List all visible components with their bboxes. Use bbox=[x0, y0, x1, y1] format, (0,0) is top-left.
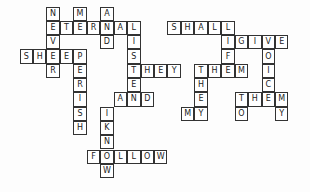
crossword-cell[interactable]: S bbox=[167, 21, 180, 35]
crossword-cell[interactable]: L bbox=[127, 150, 140, 164]
crossword-cell[interactable]: H bbox=[73, 121, 86, 135]
crossword-cell[interactable]: H bbox=[141, 64, 154, 78]
crossword-cell[interactable]: A bbox=[100, 7, 113, 21]
crossword-cell[interactable]: L bbox=[208, 21, 221, 35]
crossword-cell[interactable]: A bbox=[114, 21, 127, 35]
crossword-cell[interactable]: H bbox=[194, 78, 207, 92]
crossword-cell[interactable]: M bbox=[235, 64, 248, 78]
crossword-cell[interactable]: R bbox=[87, 21, 100, 35]
crossword-cell[interactable]: M bbox=[181, 107, 194, 121]
crossword-cell[interactable]: R bbox=[46, 64, 59, 78]
crossword-cell[interactable]: N bbox=[100, 21, 113, 35]
crossword-cell[interactable]: L bbox=[221, 21, 234, 35]
crossword-cell[interactable]: I bbox=[248, 35, 261, 49]
crossword-cell[interactable]: H bbox=[33, 49, 46, 63]
crossword-cell[interactable]: T bbox=[235, 92, 248, 106]
crossword-cell[interactable]: Y bbox=[194, 107, 207, 121]
crossword-cell[interactable]: E bbox=[73, 64, 86, 78]
crossword-cell[interactable]: T bbox=[60, 21, 73, 35]
crossword-cell[interactable]: O bbox=[262, 49, 275, 63]
crossword-cell[interactable]: W bbox=[100, 164, 113, 178]
crossword-cell[interactable]: H bbox=[208, 64, 221, 78]
crossword-cell[interactable]: E bbox=[154, 64, 167, 78]
crossword-cell[interactable]: E bbox=[127, 78, 140, 92]
crossword-cell[interactable]: E bbox=[275, 35, 288, 49]
crossword-cell[interactable]: O bbox=[100, 150, 113, 164]
crossword-cell[interactable]: E bbox=[46, 49, 59, 63]
crossword-cell[interactable]: E bbox=[221, 64, 234, 78]
crossword-cell[interactable]: A bbox=[114, 92, 127, 106]
crossword-cell[interactable]: N bbox=[127, 92, 140, 106]
crossword-cell[interactable]: S bbox=[20, 49, 33, 63]
crossword-cell[interactable]: O bbox=[141, 150, 154, 164]
crossword-cell[interactable]: I bbox=[73, 92, 86, 106]
crossword-cell[interactable]: P bbox=[73, 49, 86, 63]
crossword-cell[interactable]: V bbox=[46, 35, 59, 49]
crossword-cell[interactable]: N bbox=[46, 7, 59, 21]
crossword-cell[interactable]: F bbox=[87, 150, 100, 164]
crossword-cell[interactable]: S bbox=[127, 49, 140, 63]
crossword-cell[interactable]: I bbox=[127, 35, 140, 49]
crossword-cell[interactable]: Y bbox=[167, 64, 180, 78]
crossword-cell[interactable]: T bbox=[194, 64, 207, 78]
crossword-cell[interactable]: H bbox=[248, 92, 261, 106]
crossword-cell[interactable]: I bbox=[221, 35, 234, 49]
crossword-cell[interactable]: E bbox=[194, 92, 207, 106]
crossword-cell[interactable]: L bbox=[114, 150, 127, 164]
crossword-cell[interactable]: C bbox=[262, 78, 275, 92]
crossword-cell[interactable]: A bbox=[194, 21, 207, 35]
crossword-cell[interactable]: I bbox=[100, 107, 113, 121]
crossword-cell[interactable]: E bbox=[46, 21, 59, 35]
crossword-board: NEVERMEANDTRALISTENSHEPERISHHEYADIKNOWFL… bbox=[0, 0, 310, 192]
crossword-cell[interactable]: F bbox=[221, 49, 234, 63]
crossword-cell[interactable]: E bbox=[262, 92, 275, 106]
crossword-cell[interactable]: O bbox=[235, 107, 248, 121]
crossword-cell[interactable]: E bbox=[60, 49, 73, 63]
crossword-cell[interactable]: I bbox=[262, 64, 275, 78]
crossword-cell[interactable]: S bbox=[73, 107, 86, 121]
crossword-cell[interactable]: H bbox=[181, 21, 194, 35]
crossword-cell[interactable]: D bbox=[100, 35, 113, 49]
crossword-cell[interactable]: E bbox=[73, 21, 86, 35]
crossword-cell[interactable]: R bbox=[73, 78, 86, 92]
crossword-cell[interactable]: M bbox=[275, 92, 288, 106]
crossword-cell[interactable]: L bbox=[127, 21, 140, 35]
crossword-cell[interactable]: T bbox=[127, 64, 140, 78]
crossword-cell[interactable]: W bbox=[154, 150, 167, 164]
crossword-cell[interactable]: Y bbox=[275, 107, 288, 121]
crossword-cell[interactable]: M bbox=[73, 7, 86, 21]
crossword-cell[interactable]: N bbox=[100, 135, 113, 149]
crossword-cell[interactable]: V bbox=[262, 35, 275, 49]
crossword-cell[interactable]: D bbox=[141, 92, 154, 106]
crossword-cell[interactable]: K bbox=[100, 121, 113, 135]
crossword-cell[interactable]: G bbox=[235, 35, 248, 49]
